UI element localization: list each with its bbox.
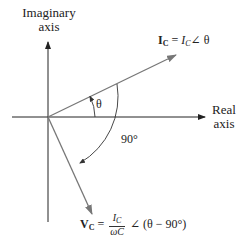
fraction-numerator: IC	[109, 213, 125, 227]
theta-arc	[90, 97, 95, 118]
phasor-diagram: Imaginary axis Real axis IC = IC∠ θ θ 90…	[0, 0, 244, 244]
current-angle: θ	[204, 33, 210, 47]
angle-symbol-icon: ∠	[191, 33, 201, 47]
fraction-denominator: ωC	[109, 227, 125, 237]
ninety-degree-arc	[80, 84, 118, 163]
imaginary-label-line2: axis	[20, 20, 78, 34]
current-subscript: C	[163, 39, 169, 48]
current-phasor-arrow	[48, 55, 176, 117]
voltage-phasor-arrow	[48, 117, 92, 214]
voltage-angle: (θ − 90°)	[143, 217, 186, 231]
voltage-fraction: IC ωC	[109, 213, 125, 237]
current-phasor-equation: IC = IC∠ θ	[158, 33, 209, 48]
real-label-line2: axis	[206, 117, 242, 131]
equals-sign: =	[97, 217, 104, 231]
voltage-symbol: V	[80, 217, 89, 231]
real-label-line1: Real	[206, 103, 242, 117]
imaginary-axis-label: Imaginary axis	[20, 6, 78, 34]
voltage-phasor-equation: VC = IC ωC ∠ (θ − 90°)	[80, 213, 186, 237]
imaginary-label-line1: Imaginary	[20, 6, 78, 20]
ninety-degree-label: 90°	[121, 132, 138, 147]
voltage-subscript: C	[89, 223, 95, 232]
numerator-subscript: C	[116, 216, 121, 225]
equals-sign: =	[171, 33, 178, 47]
angle-symbol-icon: ∠	[130, 217, 140, 231]
real-axis-label: Real axis	[206, 103, 242, 131]
theta-label: θ	[96, 97, 102, 112]
